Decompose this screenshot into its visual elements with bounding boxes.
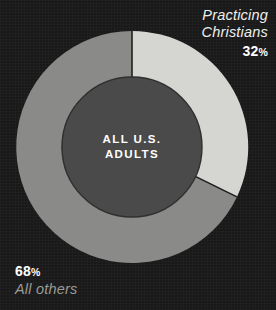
callout-practicing-christians-percent: 32% <box>202 43 268 60</box>
callout-practicing-christians-label-line1: Practicing <box>202 7 268 24</box>
callout-all-others-label: All others <box>15 281 77 298</box>
percent-sign: % <box>258 46 268 58</box>
donut-inner-disc <box>62 77 202 217</box>
percent-sign: % <box>31 266 41 278</box>
percent-value: 68 <box>15 263 31 279</box>
callout-all-others: 68% All others <box>15 263 77 298</box>
callout-all-others-percent: 68% <box>15 263 77 280</box>
callout-practicing-christians: Practicing Christians 32% <box>202 7 268 60</box>
percent-value: 32 <box>242 43 258 59</box>
callout-practicing-christians-label-line2: Christians <box>202 24 268 41</box>
chart-page: ALL U.S. ADULTS Practicing Christians 32… <box>0 0 276 310</box>
